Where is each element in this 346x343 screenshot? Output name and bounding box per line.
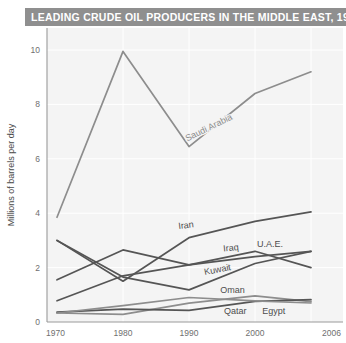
x-tick-label: 1970 xyxy=(46,328,65,338)
series-label-qatar: Qatar xyxy=(224,306,247,316)
y-axis-ticks: 0246810 xyxy=(31,45,41,327)
x-tick-label: 1990 xyxy=(180,328,199,338)
series-label-iraq: Iraq xyxy=(223,242,239,254)
y-axis-title-text: Millions of barrels per day xyxy=(6,123,16,226)
y-tick-label: 8 xyxy=(35,99,40,109)
plot-background xyxy=(47,28,343,322)
x-tick-label: 2000 xyxy=(246,328,265,338)
y-tick-label: 0 xyxy=(35,317,40,327)
series-label-egypt: Egypt xyxy=(262,306,286,316)
line-chart: Saudi ArabiaIranIraqKuwaitU.A.E.OmanQata… xyxy=(0,0,346,343)
x-axis-ticks: 19701980199020002006 xyxy=(46,328,341,338)
x-tick-label: 1980 xyxy=(114,328,133,338)
series-label-iran: Iran xyxy=(178,219,195,231)
series-label-oman: Oman xyxy=(220,285,245,295)
y-tick-label: 4 xyxy=(35,208,40,218)
y-axis-title: Millions of barrels per day xyxy=(6,123,16,226)
x-tick-label: 2006 xyxy=(322,328,341,338)
chart-container: LEADING CRUDE OIL PRODUCERS IN THE MIDDL… xyxy=(0,0,346,343)
y-tick-label: 10 xyxy=(31,45,41,55)
y-tick-label: 2 xyxy=(35,263,40,273)
series-label-u-a-e: U.A.E. xyxy=(257,239,283,249)
y-tick-label: 6 xyxy=(35,154,40,164)
